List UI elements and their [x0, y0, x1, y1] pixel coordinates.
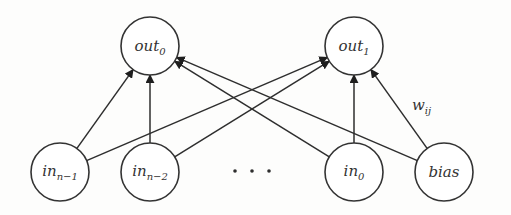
- node-out1: out1: [325, 17, 383, 75]
- node-bias-label: bias: [428, 163, 459, 181]
- diagram-canvas: out0 out1 inn−1 inn−2 in0 bias wij: [0, 0, 511, 215]
- edge-in-n-minus-1-to-out0: [77, 70, 133, 149]
- weight-label: wij: [412, 96, 431, 116]
- node-bias: bias: [415, 143, 473, 201]
- ellipsis: [233, 169, 271, 173]
- node-out0: out0: [121, 17, 179, 75]
- node-in-n-minus-2: inn−2: [121, 143, 179, 201]
- edge-in-n-minus-1-to-out1: [87, 57, 328, 160]
- edge-bias-to-out0: [177, 57, 418, 160]
- edges: [77, 57, 427, 160]
- node-in-n-minus-1: inn−1: [31, 143, 89, 201]
- neural-network-diagram: out0 out1 inn−1 inn−2 in0 bias wij: [0, 0, 511, 215]
- node-in0: in0: [325, 143, 383, 201]
